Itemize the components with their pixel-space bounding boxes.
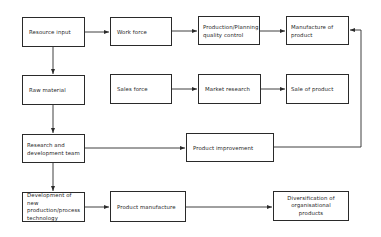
node-label: Product manufacture (117, 203, 176, 211)
node-raw-material: Raw material (22, 75, 85, 105)
node-market-research: Market research (198, 74, 261, 104)
node-label: Resource input (29, 28, 71, 36)
node-label: Production/Planning quality control (203, 23, 259, 39)
node-development-of-new-technology: Development of new production/process te… (22, 192, 85, 222)
node-label: Development of new production/process te… (27, 192, 80, 222)
node-product-manufacture: Product manufacture (110, 191, 186, 222)
node-sale-of-product: Sale of product (286, 74, 349, 104)
node-sales-force: Sales force (110, 74, 172, 104)
node-label: Sales force (117, 85, 148, 93)
node-label: Work force (117, 28, 147, 36)
flowchart-diagram: Resource input Work force Production/Pla… (0, 0, 381, 237)
node-work-force: Work force (110, 17, 172, 46)
node-label: Sale of product (291, 85, 333, 93)
node-product-improvement: Product improvement (186, 133, 274, 162)
node-label: Diversification of organisational produc… (278, 195, 344, 218)
node-diversification-of-products: Diversification of organisational produc… (273, 191, 349, 221)
node-production-planning-quality-control: Production/Planning quality control (198, 16, 260, 45)
node-research-and-development-team: Research and development team (22, 134, 85, 163)
node-label: Manufacture of product (291, 23, 333, 39)
node-manufacture-of-product: Manufacture of product (286, 16, 349, 45)
node-label: Raw material (29, 86, 66, 94)
node-resource-input: Resource input (22, 17, 85, 47)
node-label: Market research (205, 85, 250, 93)
node-label: Product improvement (193, 144, 253, 152)
node-label: Research and development team (27, 141, 80, 157)
